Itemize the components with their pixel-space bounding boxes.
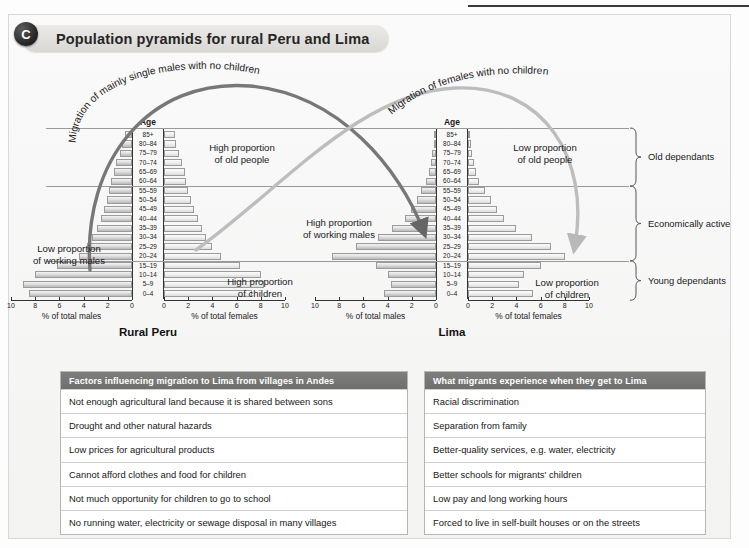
table-row: Better schools for migrants' children: [425, 462, 705, 486]
table-row: No running water, electricity or sewage …: [61, 510, 407, 534]
top-rule-decoration: [468, 5, 749, 7]
info-table-header-2: What migrants experience when they get t…: [425, 372, 705, 389]
table-row: Forced to live in self-built houses or o…: [425, 510, 705, 534]
table-row: Better-quality services, e.g. water, ele…: [425, 437, 705, 461]
table-row: Racial discrimination: [425, 389, 705, 413]
figure-badge: C: [14, 22, 38, 46]
table-row: Drought and other natural hazards: [61, 413, 407, 437]
table-row: Low prices for agricultural products: [61, 437, 407, 461]
table-row: Low pay and long working hours: [425, 486, 705, 510]
table-row: Not much opportunity for children to go …: [61, 486, 407, 510]
figure-heading-pill: Population pyramids for rural Peru and L…: [22, 25, 389, 52]
page-title: Population pyramids for rural Peru and L…: [56, 31, 369, 47]
info-table-header-1: Factors influencing migration to Lima fr…: [61, 372, 407, 389]
info-table-2: What migrants experience when they get t…: [424, 371, 706, 535]
info-table-1: Factors influencing migration to Lima fr…: [60, 371, 408, 535]
table-row: Separation from family: [425, 413, 705, 437]
table-row: Cannot afford clothes and food for child…: [61, 462, 407, 486]
table-row: Not enough agricultural land because it …: [61, 389, 407, 413]
